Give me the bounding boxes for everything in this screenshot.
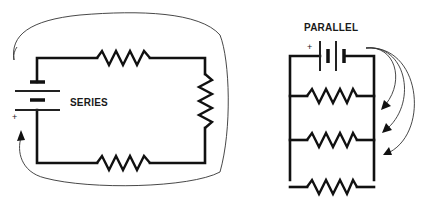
arrowhead-icon: [381, 100, 391, 110]
series-resistor-top-icon: [97, 51, 150, 65]
series-circuit: [14, 13, 229, 186]
parallel-wires: [290, 56, 374, 187]
parallel-positive-terminal-label: +: [307, 42, 312, 52]
parallel-battery-icon: [320, 41, 344, 71]
series-battery-icon: [15, 82, 60, 110]
arrowhead-icon: [383, 147, 392, 155]
series-resistor-bottom-icon: [97, 156, 150, 170]
diagram-canvas: [0, 0, 438, 204]
series-wires: [37, 58, 205, 163]
parallel-label: PARALLEL: [304, 22, 358, 33]
series-resistor-right-icon: [199, 74, 212, 128]
arrowhead-icon: [17, 130, 25, 141]
parallel-resistor-3-icon: [307, 180, 357, 194]
parallel-resistor-2-icon: [307, 133, 357, 147]
series-current-flow-arrow: [14, 13, 229, 186]
parallel-circuit: [290, 41, 414, 194]
arrowhead-icon: [382, 123, 392, 133]
parallel-resistor-1-icon: [307, 89, 357, 103]
series-label: SERIES: [70, 97, 108, 108]
series-positive-terminal-label: +: [12, 112, 17, 122]
